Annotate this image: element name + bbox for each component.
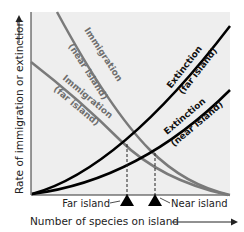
near-island-marker-icon: [148, 194, 162, 206]
far-marker-leader: [110, 201, 120, 203]
far-island-marker-icon: [120, 194, 134, 206]
near-island-label: Near island: [171, 198, 228, 209]
near-marker-leader: [160, 198, 170, 203]
y-axis-arrow-icon: [16, 15, 23, 22]
y-axis-label: Rate of immigration or extinction: [13, 20, 25, 194]
far-island-label: Far island: [62, 198, 110, 209]
x-axis-label: Number of species on island: [30, 215, 179, 227]
x-axis-arrow-icon: [231, 219, 238, 226]
island-biogeography-diagram: Far island Near island Number of species…: [0, 0, 244, 232]
